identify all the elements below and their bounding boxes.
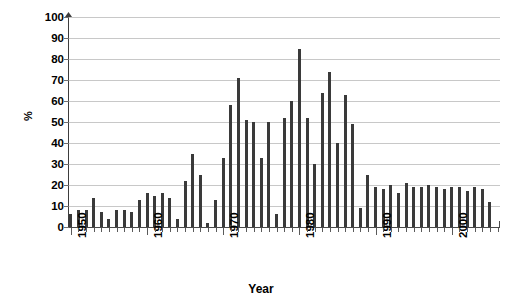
- x-axis-minor-tick-mark: [467, 228, 468, 232]
- y-axis-title: %: [22, 106, 34, 126]
- bar: [443, 189, 446, 227]
- bar: [130, 212, 133, 227]
- x-axis-minor-tick-mark: [162, 228, 163, 232]
- x-axis-minor-tick-mark: [185, 228, 186, 232]
- y-axis-tick-mark: [64, 38, 69, 39]
- y-axis-tick-label: 0: [36, 222, 64, 232]
- x-axis-minor-tick-mark: [398, 228, 399, 232]
- x-axis-minor-tick-mark: [444, 228, 445, 232]
- bar: [290, 101, 293, 227]
- y-axis-tick-mark: [64, 80, 69, 81]
- bar: [176, 219, 179, 227]
- x-axis-tick-label: 1950: [76, 198, 88, 238]
- x-axis-minor-tick-mark: [238, 228, 239, 232]
- bar: [450, 187, 453, 227]
- bar: [283, 118, 286, 227]
- x-axis-minor-tick-mark: [490, 228, 491, 232]
- x-axis-major-tick-mark: [147, 228, 148, 235]
- x-axis-minor-tick-mark: [292, 228, 293, 232]
- x-axis-minor-tick-mark: [94, 228, 95, 232]
- y-axis-tick-label: 90: [36, 33, 64, 43]
- y-axis-tick-mark: [64, 59, 69, 60]
- x-axis-tick-label: 1980: [304, 198, 316, 238]
- x-axis-tick-label: 2000: [457, 198, 469, 238]
- x-axis-minor-tick-mark: [78, 228, 79, 232]
- x-axis-minor-tick-mark: [86, 228, 87, 232]
- y-axis-tick-mark: [64, 101, 69, 102]
- bar: [214, 200, 217, 227]
- x-axis-minor-tick-mark: [307, 228, 308, 232]
- bar: [245, 120, 248, 227]
- x-axis-minor-tick-mark: [284, 228, 285, 232]
- bar: [199, 175, 202, 228]
- x-axis-minor-tick-mark: [193, 228, 194, 232]
- bar: [191, 154, 194, 228]
- x-axis-minor-tick-mark: [368, 228, 369, 232]
- y-axis-tick-mark: [64, 164, 69, 165]
- bar: [473, 187, 476, 227]
- bar: [168, 198, 171, 227]
- bar: [138, 200, 141, 227]
- x-axis-minor-tick-mark: [101, 228, 102, 232]
- x-axis-minor-tick-mark: [109, 228, 110, 232]
- x-axis-minor-tick-mark: [353, 228, 354, 232]
- bar: [336, 143, 339, 227]
- x-axis-minor-tick-mark: [315, 228, 316, 232]
- x-axis-minor-tick-mark: [330, 228, 331, 232]
- bar: [344, 95, 347, 227]
- bar: [397, 193, 400, 227]
- bar: [351, 124, 354, 227]
- y-axis-tick-label: 20: [36, 180, 64, 190]
- x-axis-major-tick-mark: [223, 228, 224, 235]
- bar: [420, 187, 423, 227]
- x-axis-minor-tick-mark: [414, 228, 415, 232]
- y-axis-tick-label: 30: [36, 159, 64, 169]
- x-axis-minor-tick-mark: [231, 228, 232, 232]
- bar: [69, 214, 72, 227]
- x-axis-minor-tick-mark: [459, 228, 460, 232]
- x-axis-minor-tick-mark: [261, 228, 262, 232]
- bar: [107, 219, 110, 227]
- y-axis-tick-label: 10: [36, 201, 64, 211]
- x-axis-minor-tick-mark: [277, 228, 278, 232]
- x-axis-minor-tick-mark: [155, 228, 156, 232]
- bar: [146, 193, 149, 227]
- x-axis-minor-tick-mark: [216, 228, 217, 232]
- x-axis-title: Year: [0, 282, 522, 296]
- y-axis-tick-label: 100: [36, 12, 64, 22]
- x-axis-minor-tick-mark: [117, 228, 118, 232]
- bar-series: [68, 17, 500, 227]
- bar: [206, 223, 209, 227]
- y-axis-tick-label: 50: [36, 117, 64, 127]
- bar: [374, 187, 377, 227]
- x-axis-minor-tick-mark: [322, 228, 323, 232]
- bar: [328, 72, 331, 227]
- bar: [267, 122, 270, 227]
- x-axis-minor-tick-mark: [139, 228, 140, 232]
- y-axis-tick-mark: [64, 17, 69, 18]
- bar: [275, 214, 278, 227]
- bar: [321, 93, 324, 227]
- x-axis-tick-label: 1960: [152, 198, 164, 238]
- x-axis-minor-tick-mark: [208, 228, 209, 232]
- bar: [298, 49, 301, 228]
- x-axis-minor-tick-mark: [429, 228, 430, 232]
- bar: [100, 212, 103, 227]
- bar: [435, 187, 438, 227]
- x-axis-minor-tick-mark: [498, 228, 499, 232]
- bar: [222, 158, 225, 227]
- x-axis-major-tick-mark: [71, 228, 72, 235]
- x-axis-minor-tick-mark: [170, 228, 171, 232]
- y-axis-tick-label: 80: [36, 54, 64, 64]
- x-axis-major-tick-mark: [452, 228, 453, 235]
- bar: [115, 210, 118, 227]
- x-axis-major-tick-mark: [376, 228, 377, 235]
- y-axis-tick-mark: [64, 122, 69, 123]
- y-axis-tick-label: 40: [36, 138, 64, 148]
- x-axis-minor-tick-mark: [345, 228, 346, 232]
- x-axis-minor-tick-mark: [200, 228, 201, 232]
- x-axis-minor-tick-mark: [475, 228, 476, 232]
- x-axis-minor-tick-mark: [482, 228, 483, 232]
- x-axis-minor-tick-mark: [391, 228, 392, 232]
- x-axis-minor-tick-mark: [338, 228, 339, 232]
